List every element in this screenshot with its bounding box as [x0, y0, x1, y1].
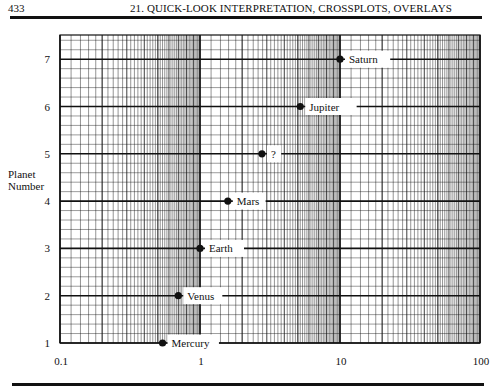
log-plot: 1234567 0.1110100 MercuryVenusEarthMars?…: [0, 0, 491, 390]
point-label: Venus: [187, 290, 214, 302]
point-marker: [297, 103, 304, 110]
x-tick-label: 10: [336, 355, 348, 367]
point-label: ?: [271, 148, 276, 160]
minor-grid: [60, 35, 480, 343]
data-point: ?: [258, 145, 281, 162]
point-label: Mercury: [172, 337, 210, 349]
x-tick-label: 0.1: [54, 355, 68, 367]
point-marker: [196, 245, 203, 252]
y-tick-label: 5: [45, 148, 51, 160]
data-point: Jupiter: [297, 98, 357, 115]
y-tick-label: 7: [45, 53, 51, 65]
x-tick-label: 1: [198, 355, 204, 367]
point-marker: [336, 56, 343, 63]
y-tick-label: 4: [45, 195, 51, 207]
point-marker: [224, 198, 231, 205]
point-marker: [258, 150, 265, 157]
y-tick-label: 6: [45, 101, 51, 113]
data-point: Earth: [196, 240, 244, 257]
y-axis-ticks: 1234567: [45, 53, 51, 349]
point-marker: [159, 339, 166, 346]
bottom-rule: [12, 383, 484, 386]
x-axis-ticks: 0.1110100: [54, 355, 490, 367]
major-grid: [60, 35, 480, 343]
point-label: Jupiter: [309, 101, 339, 113]
y-tick-label: 2: [45, 290, 51, 302]
point-label: Mars: [237, 195, 260, 207]
y-tick-label: 1: [45, 337, 51, 349]
data-point: Mercury: [159, 335, 219, 352]
data-point: Mars: [224, 193, 265, 210]
y-tick-label: 3: [45, 242, 51, 254]
plot-frame: [60, 35, 480, 343]
point-label: Saturn: [349, 53, 378, 65]
x-tick-label: 100: [473, 355, 490, 367]
point-marker: [175, 292, 182, 299]
point-label: Earth: [209, 242, 233, 254]
